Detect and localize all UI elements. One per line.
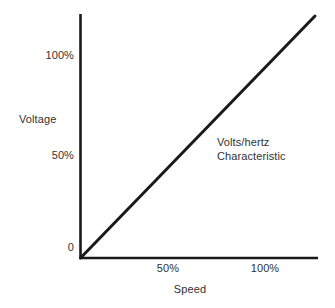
series-annotation-line-2: Characteristic [217, 150, 286, 164]
y-axis-title: Voltage [19, 113, 56, 126]
x-axis-tick-label-50pct: 50% [138, 262, 198, 275]
chart-figure: 100% 50% 0 Voltage 50% 100% Speed Volts/… [0, 0, 335, 308]
y-axis-tick-label-origin: 0 [14, 241, 74, 254]
x-axis-title: Speed [160, 283, 220, 296]
x-axis-tick-label-100pct: 100% [235, 262, 295, 275]
y-axis-tick-label-50pct: 50% [14, 149, 74, 162]
series-annotation: Volts/hertz Characteristic [217, 136, 286, 163]
series-annotation-line-1: Volts/hertz [217, 136, 269, 148]
y-axis-tick-label-100pct: 100% [14, 49, 74, 62]
